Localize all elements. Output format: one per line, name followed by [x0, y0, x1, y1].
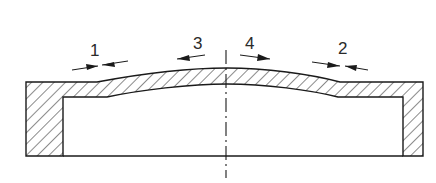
- label-3: 3: [193, 34, 202, 53]
- arrow-2-icon: [312, 62, 368, 71]
- label-4: 4: [245, 34, 254, 53]
- arrow-1-icon: [72, 61, 128, 70]
- arrow-3-icon: [177, 55, 205, 61]
- arrow-4-icon: [240, 54, 270, 61]
- label-2: 2: [338, 39, 347, 58]
- cross-section-diagram: 1 3 4 2: [0, 0, 436, 183]
- label-1: 1: [90, 41, 99, 60]
- hatched-section: [20, 60, 430, 160]
